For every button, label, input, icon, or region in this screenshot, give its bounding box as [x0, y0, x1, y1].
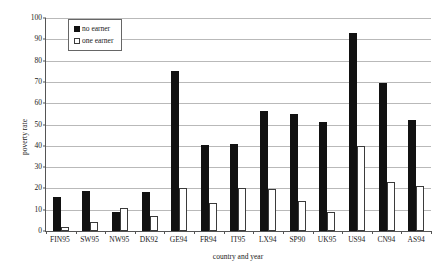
bar-group [224, 18, 254, 231]
x-axis-tick-mark [164, 231, 165, 234]
x-axis-title: country and year [45, 252, 431, 261]
y-axis-tick-label: 100 [31, 14, 42, 22]
x-axis-tick-label: CN94 [372, 236, 402, 244]
x-axis-tick-label: US94 [342, 236, 372, 244]
bar-no-earner [349, 33, 357, 231]
bar-one-earner [357, 146, 365, 231]
bar-no-earner [53, 197, 61, 231]
x-axis-tick-mark [313, 231, 314, 234]
y-axis-tick-label: 40 [35, 142, 43, 150]
bar-one-earner [90, 222, 98, 231]
y-axis-tick-label: 30 [35, 163, 43, 171]
legend-label: no earner [82, 25, 110, 33]
bar-one-earner [327, 212, 335, 231]
bar-group [283, 18, 313, 231]
x-axis-tick-mark [431, 231, 432, 234]
bar-one-earner [416, 186, 424, 231]
bar-one-earner [268, 189, 276, 231]
bar-one-earner [387, 182, 395, 231]
bar-no-earner [408, 120, 416, 231]
x-axis-tick-label: GE94 [164, 236, 194, 244]
bar-no-earner [379, 83, 387, 231]
x-axis-tick-label: SP90 [283, 236, 313, 244]
bar-no-earner [112, 212, 120, 231]
legend-swatch-icon-light [74, 38, 80, 44]
x-axis-tick-mark [135, 231, 136, 234]
bar-group [312, 18, 342, 231]
y-axis-tick-label: 10 [35, 206, 43, 214]
bar-chart: poverty rate 0102030405060708090100 FIN9… [0, 0, 445, 274]
legend-label: one earner [82, 37, 113, 45]
x-axis-tick-mark [224, 231, 225, 234]
y-axis-tick-label: 20 [35, 185, 43, 193]
x-axis-tick-mark [194, 231, 195, 234]
bar-no-earner [260, 111, 268, 231]
x-axis-tick-label: UK95 [312, 236, 342, 244]
y-axis-title: poverty rate [20, 119, 29, 155]
x-axis-tick-mark [253, 231, 254, 234]
bar-group [401, 18, 431, 231]
x-axis-tick-mark [401, 231, 402, 234]
x-axis-tick-mark [46, 231, 47, 234]
y-axis-tick-label: 50 [35, 121, 43, 129]
y-axis-tick-label: 60 [35, 99, 43, 107]
x-axis-tick-mark [283, 231, 284, 234]
bar-no-earner [142, 192, 150, 231]
x-axis-tick-label: FR94 [193, 236, 223, 244]
bar-one-earner [298, 201, 306, 231]
legend-item-no-earner: no earner [74, 23, 113, 35]
x-axis-tick-label: AS94 [401, 236, 431, 244]
gridline [46, 231, 431, 232]
y-axis-tick-label: 0 [38, 227, 42, 235]
x-axis-tick-mark [342, 231, 343, 234]
legend-swatch-icon-dark [74, 26, 80, 32]
bar-one-earner [61, 227, 69, 231]
x-axis-tick-label: NW95 [104, 236, 134, 244]
y-axis-tick-label: 80 [35, 57, 43, 65]
bar-one-earner [120, 208, 128, 231]
bar-group [164, 18, 194, 231]
bar-group [135, 18, 165, 231]
bar-one-earner [150, 216, 158, 231]
x-axis-tick-mark [76, 231, 77, 234]
bar-one-earner [179, 188, 187, 231]
bar-one-earner [209, 203, 217, 231]
x-axis-tick-label: IT95 [223, 236, 253, 244]
bar-group [372, 18, 402, 231]
bar-no-earner [82, 191, 90, 231]
x-axis-tick-label: DK92 [134, 236, 164, 244]
y-axis-tick-label: 90 [35, 36, 43, 44]
bar-no-earner [290, 114, 298, 231]
bar-group [194, 18, 224, 231]
bar-no-earner [201, 145, 209, 231]
x-axis-tick-mark [105, 231, 106, 234]
bar-no-earner [319, 122, 327, 231]
y-axis-tick-label: 70 [35, 78, 43, 86]
x-axis-tick-mark [372, 231, 373, 234]
legend-item-one-earner: one earner [74, 35, 113, 47]
bar-no-earner [171, 71, 179, 231]
bar-group [253, 18, 283, 231]
bar-one-earner [238, 188, 246, 231]
x-axis-tick-label: FIN95 [45, 236, 75, 244]
x-axis-labels: FIN95SW95NW95DK92GE94FR94IT95LX94SP90UK9… [45, 236, 431, 244]
x-axis-tick-label: LX94 [253, 236, 283, 244]
chart-legend: no earner one earner [68, 19, 122, 51]
bar-group [342, 18, 372, 231]
x-axis-tick-label: SW95 [75, 236, 105, 244]
bar-no-earner [230, 144, 238, 231]
